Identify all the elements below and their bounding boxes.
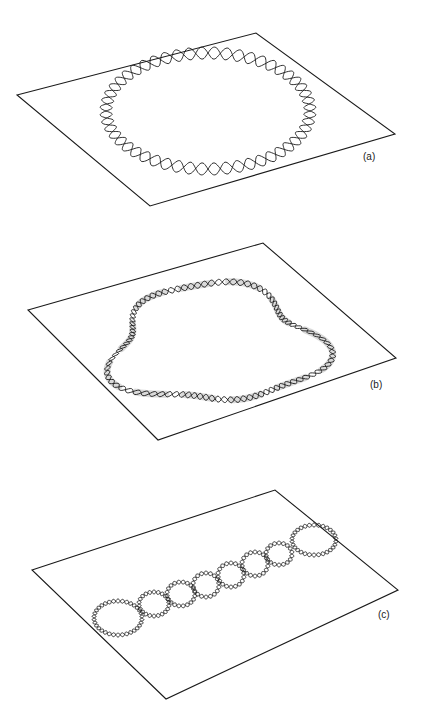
- plane-outline: [32, 490, 398, 699]
- panel-label-c: (c): [378, 609, 390, 620]
- condensed-beaded-dna-diagram: [0, 0, 422, 726]
- panel-c: (c): [0, 0, 422, 726]
